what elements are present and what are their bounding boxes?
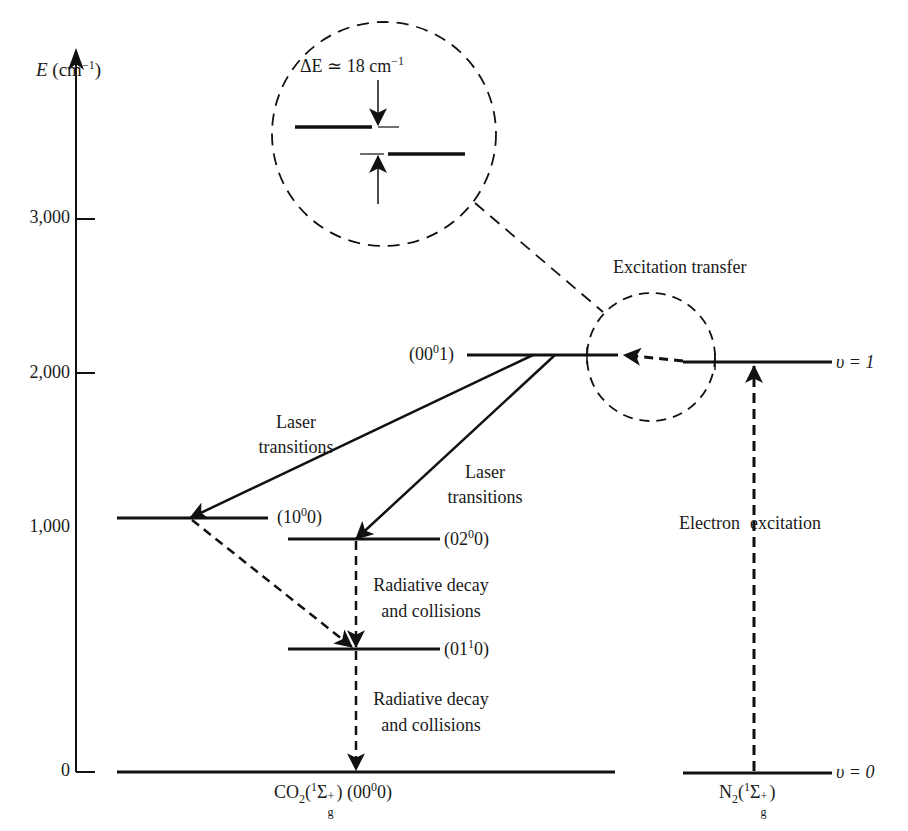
tick-label-0: 0 (0, 760, 70, 781)
level-label-00001: (0001) (409, 344, 454, 364)
level-label-post: 0) (307, 507, 322, 527)
level-label-post: 0) (474, 639, 489, 659)
delta-e-text: ΔE ≃ 18 cm (300, 56, 391, 76)
radiative-label-line2: and collisions (360, 712, 502, 738)
axis-label-symbol: E (36, 59, 48, 80)
co2-state-pre: (00 (343, 782, 372, 802)
level-label-02000: (0200) (444, 529, 489, 549)
level-label-pre: (00 (409, 344, 433, 364)
n2-sigma: Σ (750, 782, 760, 802)
level-label-pre: (02 (444, 529, 468, 549)
energy-level-diagram: E (cm−1) 3,000 2,000 1,000 0 ΔE ≃ 18 cm−… (0, 0, 908, 831)
laser-label-line1: Laser (236, 410, 356, 435)
y-axis (68, 48, 95, 772)
delta-e-exp: −1 (391, 54, 404, 68)
decay-transitions (192, 520, 356, 770)
radiative-decay-label-1: Radiative decay and collisions (360, 572, 502, 624)
level-label-n2-v0: υ = 0 (836, 762, 874, 782)
co2-state-post: 0) (377, 782, 392, 802)
electron-label-b: excitation (750, 513, 821, 533)
axis-label-close: ) (95, 59, 101, 80)
electron-label-a: Electron (679, 513, 740, 533)
excitation-transfer-arrow (624, 355, 683, 361)
n2-formula: N (719, 782, 732, 802)
laser-transitions-label-2: Laser transitions (425, 460, 545, 510)
n2-molecule-label: N2(1Σ+g) (719, 782, 775, 802)
tick-label-2000: 2,000 (0, 362, 70, 383)
laser-label-line2: transitions (236, 435, 356, 460)
zoom-connector (475, 203, 603, 312)
electron-excitation-label: Electronexcitation (679, 513, 821, 533)
tick-label-1000: 1,000 (0, 516, 70, 537)
n2-g: g (760, 802, 766, 822)
n2-levels (683, 362, 832, 773)
level-label-pre: (01 (444, 639, 468, 659)
co2-g: g (328, 802, 334, 822)
axis-label: E (cm−1) (36, 60, 101, 80)
delta-e-label: ΔE ≃ 18 cm−1 (300, 56, 404, 76)
laser-label-line1: Laser (425, 460, 545, 485)
axis-label-unit: (cm (52, 59, 82, 80)
axis-label-exp: −1 (82, 58, 95, 72)
level-label-post: 1) (439, 344, 454, 364)
laser-label-line2: transitions (425, 485, 545, 510)
level-label-10000: (1000) (277, 507, 322, 527)
radiative-decay-label-2: Radiative decay and collisions (360, 686, 502, 738)
level-label-pre: (10 (277, 507, 301, 527)
radiative-label-line1: Radiative decay (360, 686, 502, 712)
co2-molecule-label: CO2(1Σ+g) (0000) (274, 782, 392, 802)
level-label-01100: (0110) (444, 639, 489, 659)
level-label-n2-v1: υ = 1 (836, 352, 874, 372)
radiative-label-line1: Radiative decay (360, 572, 502, 598)
co2-sigma: Σ (317, 782, 327, 802)
tick-label-3000: 3,000 (0, 207, 70, 228)
co2-formula: CO (274, 782, 299, 802)
excitation-transfer-label: Excitation transfer (613, 257, 746, 277)
level-label-post: 0) (474, 529, 489, 549)
n2-close: ) (769, 782, 775, 802)
laser-transitions-label-1: Laser transitions (236, 410, 356, 460)
radiative-label-line2: and collisions (360, 598, 502, 624)
